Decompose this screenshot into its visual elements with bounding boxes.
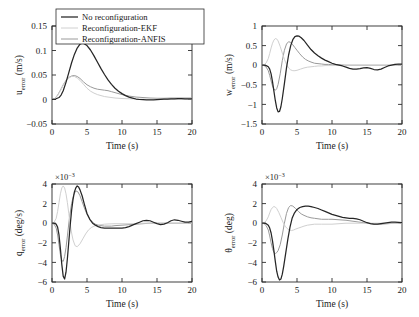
legend-label: Reconfiguration-EKF xyxy=(82,23,157,33)
x-tick-label: 5 xyxy=(295,127,300,137)
y-axis-title: qerror (deg/s) xyxy=(14,210,26,256)
series-line xyxy=(52,76,192,99)
x-tick-label: 15 xyxy=(153,127,163,137)
subplot-q-error: ×10−305101520−6−4−2024Time (s)qerror (de… xyxy=(0,158,209,316)
y-tick-label: 0.1 xyxy=(36,46,47,56)
x-axis-title: Time (s) xyxy=(316,141,348,152)
series-line xyxy=(262,39,402,71)
x-tick-label: 10 xyxy=(118,285,128,295)
series-line xyxy=(52,186,192,279)
plot-frame xyxy=(262,26,402,124)
x-tick-label: 0 xyxy=(50,127,55,137)
x-axis-title: Time (s) xyxy=(316,299,348,310)
subplot-u-error: 05101520−0.0500.050.10.15Time (s)uerror … xyxy=(0,0,209,158)
x-tick-label: 10 xyxy=(328,127,338,137)
y-tick-label: 0.15 xyxy=(31,21,47,31)
y-tick-label: 0 xyxy=(43,95,48,105)
y-tick-label: −2 xyxy=(37,238,47,248)
y-tick-label: 0 xyxy=(253,218,258,228)
y-tick-label: −0.5 xyxy=(241,80,258,90)
subplot-w-error: 05101520−1.5−1−0.500.51Time (s)werror (m… xyxy=(210,0,419,158)
y-tick-label: 4 xyxy=(43,179,48,189)
x-axis-title: Time (s) xyxy=(106,299,138,310)
x-tick-label: 0 xyxy=(50,285,55,295)
x-tick-label: 10 xyxy=(328,285,338,295)
subplot-theta-error: ×10−305101520−6−4−2024Time (s)θerror (de… xyxy=(210,158,419,316)
x-tick-label: 0 xyxy=(260,285,265,295)
series-line xyxy=(52,75,192,99)
y-tick-label: −6 xyxy=(247,277,257,287)
x-tick-label: 5 xyxy=(85,127,90,137)
y-tick-label: 2 xyxy=(253,199,258,209)
y-tick-label: 0.5 xyxy=(246,41,258,51)
y-tick-label: −2 xyxy=(247,238,257,248)
y-axis-title: uerror (m/s) xyxy=(14,55,26,95)
y-tick-label: 0.05 xyxy=(31,70,47,80)
y-tick-label: −6 xyxy=(37,277,47,287)
x-tick-label: 5 xyxy=(295,285,300,295)
y-tick-label: −4 xyxy=(37,258,47,268)
x-tick-label: 20 xyxy=(188,127,198,137)
series-line xyxy=(262,206,402,280)
x-tick-label: 20 xyxy=(398,127,408,137)
y-tick-label: 4 xyxy=(253,179,258,189)
x-tick-label: 10 xyxy=(118,127,128,137)
y-tick-label: 2 xyxy=(43,199,48,209)
y-axis-title: werror (m/s) xyxy=(224,54,236,96)
y-tick-label: 0 xyxy=(43,218,48,228)
series-line xyxy=(262,206,402,254)
y-axis-title: θerror (deg) xyxy=(224,213,236,253)
legend-label: Reconfiguration-ANFIS xyxy=(82,34,166,44)
x-tick-label: 15 xyxy=(363,285,373,295)
exponent-label: ×10−3 xyxy=(55,172,75,183)
y-tick-label: −1 xyxy=(247,100,257,110)
x-tick-label: 20 xyxy=(398,285,408,295)
series-line xyxy=(52,186,192,247)
legend: No reconfigurationReconfiguration-EKFRec… xyxy=(56,9,204,44)
x-tick-label: 15 xyxy=(153,285,163,295)
figure-canvas: 05101520−0.0500.050.10.15Time (s)uerror … xyxy=(0,0,419,317)
y-tick-label: −0.05 xyxy=(26,119,47,129)
x-tick-label: 20 xyxy=(188,285,198,295)
y-tick-label: −1.5 xyxy=(241,119,258,129)
x-axis-title: Time (s) xyxy=(106,141,138,152)
x-tick-label: 0 xyxy=(260,127,265,137)
x-tick-label: 15 xyxy=(363,127,373,137)
exponent-label: ×10−3 xyxy=(265,172,285,183)
y-tick-label: 0 xyxy=(253,60,258,70)
y-tick-label: 1 xyxy=(253,21,258,31)
series-line xyxy=(262,207,402,231)
y-tick-label: −4 xyxy=(247,258,257,268)
x-tick-label: 5 xyxy=(85,285,90,295)
legend-label: No reconfiguration xyxy=(82,12,148,22)
series-line xyxy=(52,43,192,100)
series-line xyxy=(262,36,402,112)
